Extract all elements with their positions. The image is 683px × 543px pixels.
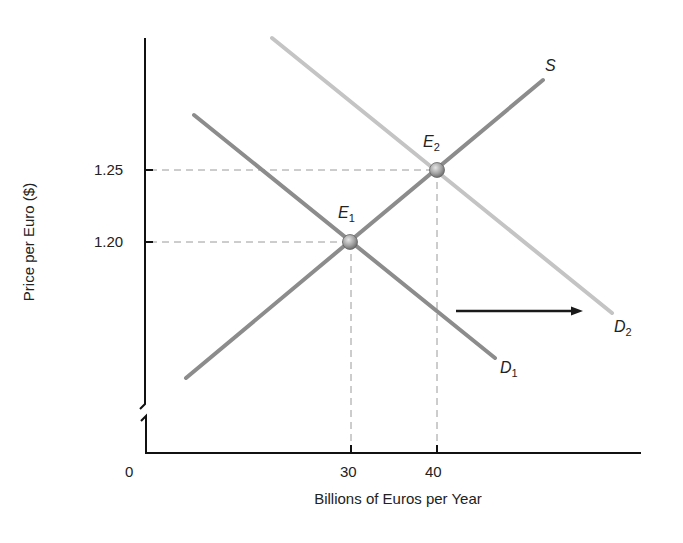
equilibrium-e1-label: E1 (338, 204, 355, 224)
demand-d1-label: D1 (500, 359, 518, 379)
origin-label: 0 (125, 463, 133, 480)
shift-arrow (456, 307, 583, 316)
y-tick-label-1-25: 1.25 (94, 161, 123, 178)
demand-d2-label: D2 (614, 318, 632, 338)
equilibrium-point-e2 (430, 163, 445, 178)
guide-lines (150, 170, 437, 448)
axes (140, 38, 641, 453)
supply-curve (186, 80, 543, 378)
axis-break-mark (140, 400, 146, 452)
supply-label: S (545, 57, 556, 75)
y-axis-label: Price per Euro ($) (20, 183, 37, 301)
x-axis-label: Billions of Euros per Year (314, 490, 482, 507)
y-tick-label-1-20: 1.20 (94, 233, 123, 250)
chart-canvas (0, 0, 683, 543)
x-tick-label-30: 30 (340, 463, 357, 480)
x-tick-label-40: 40 (425, 463, 442, 480)
equilibrium-e2-label: E2 (423, 133, 440, 153)
equilibrium-point-e1 (343, 235, 358, 250)
